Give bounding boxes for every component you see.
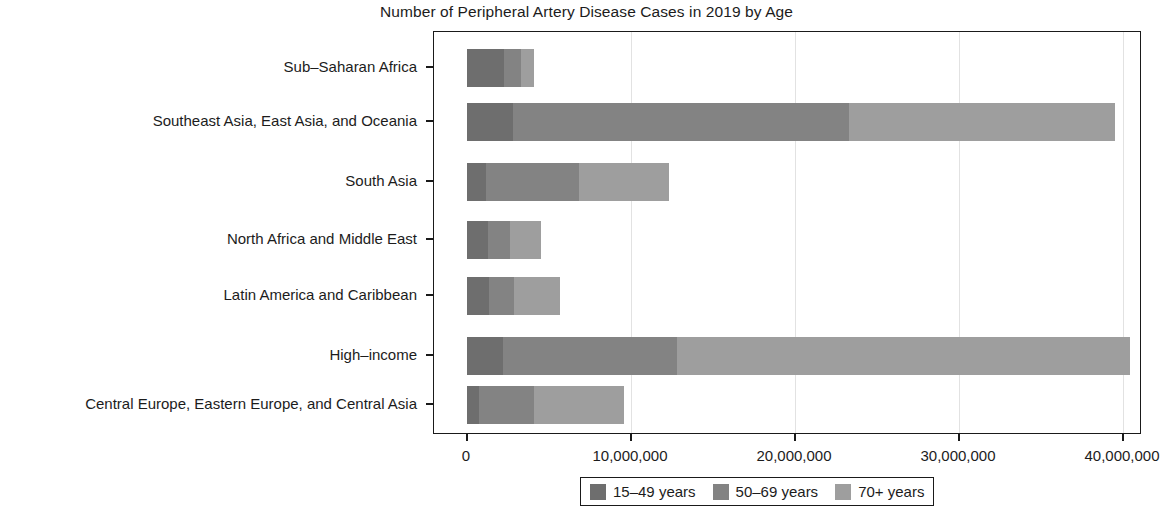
y-axis-tick: [426, 403, 433, 405]
y-axis-tick: [426, 120, 433, 122]
bar-row: [467, 337, 1130, 375]
legend-item-label: 70+ years: [858, 484, 924, 499]
legend-item: 15–49 years: [590, 484, 696, 500]
x-axis-tick: [630, 434, 632, 441]
x-axis-tick: [466, 434, 468, 441]
bar-segment: [849, 103, 1115, 141]
bar-segment: [579, 163, 669, 201]
bar-row: [467, 221, 541, 259]
bar-segment: [467, 221, 488, 259]
bar-row: [467, 163, 669, 201]
y-axis-tick: [426, 238, 433, 240]
bar-segment: [534, 386, 624, 424]
x-axis-tick: [794, 434, 796, 441]
bar-segment: [467, 49, 504, 87]
bar-row: [467, 49, 534, 87]
bar-segment: [510, 221, 541, 259]
bar-row: [467, 277, 560, 315]
y-axis-label: Southeast Asia, East Asia, and Oceania: [0, 113, 417, 128]
chart-title: Number of Peripheral Artery Disease Case…: [0, 3, 1173, 21]
legend-swatch-icon: [590, 484, 606, 500]
x-axis-tick: [958, 434, 960, 441]
x-axis-label: 0: [386, 448, 546, 463]
y-axis-label: South Asia: [0, 173, 417, 188]
bar-segment: [489, 277, 514, 315]
legend-swatch-icon: [835, 484, 851, 500]
bar-segment: [479, 386, 534, 424]
legend-item-label: 15–49 years: [613, 484, 696, 499]
bar-segment: [677, 337, 1130, 375]
bar-row: [467, 386, 624, 424]
y-axis-tick: [426, 180, 433, 182]
x-axis-label: 30,000,000: [878, 448, 1038, 463]
x-axis-label: 20,000,000: [714, 448, 874, 463]
plot-inner: [434, 32, 1140, 433]
x-axis-tick: [1122, 434, 1124, 441]
bar-segment: [486, 163, 579, 201]
bar-segment: [467, 277, 489, 315]
legend-item-label: 50–69 years: [736, 484, 819, 499]
x-axis-label: 10,000,000: [550, 448, 710, 463]
bar-segment: [503, 337, 677, 375]
bar-segment: [504, 49, 521, 87]
bar-segment: [467, 163, 486, 201]
bar-segment: [467, 386, 479, 424]
bar-segment: [467, 103, 513, 141]
bar-segment: [521, 49, 534, 87]
bar-segment: [513, 103, 849, 141]
plot-area: [433, 31, 1141, 434]
y-axis-label: Latin America and Caribbean: [0, 287, 417, 302]
bar-row: [467, 103, 1115, 141]
y-axis-tick: [426, 354, 433, 356]
y-axis-tick: [426, 294, 433, 296]
x-axis-label: 40,000,000: [1042, 448, 1173, 463]
legend-swatch-icon: [713, 484, 729, 500]
legend-item: 50–69 years: [713, 484, 819, 500]
bar-segment: [488, 221, 510, 259]
y-axis-label: High–income: [0, 347, 417, 362]
y-axis-label: Sub–Saharan Africa: [0, 59, 417, 74]
bar-segment: [467, 337, 503, 375]
bar-segment: [514, 277, 560, 315]
legend: 15–49 years50–69 years70+ years: [580, 477, 934, 506]
y-axis-label: North Africa and Middle East: [0, 231, 417, 246]
legend-item: 70+ years: [835, 484, 924, 500]
peripheral-artery-disease-bar-chart: Number of Peripheral Artery Disease Case…: [0, 0, 1173, 510]
y-axis-tick: [426, 66, 433, 68]
y-axis-label: Central Europe, Eastern Europe, and Cent…: [0, 396, 417, 411]
